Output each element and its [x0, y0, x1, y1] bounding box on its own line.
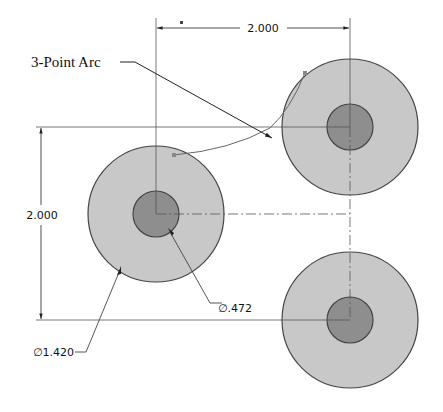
horizontal-dimension[interactable]: 2.000 [157, 21, 349, 35]
horizontal-dim-text: 2.000 [247, 22, 279, 35]
inner-diameter-text: ∅.472 [218, 302, 252, 315]
arc-callout-label: 3-Point Arc [31, 54, 101, 70]
arc-callout: 3-Point Arc [31, 54, 272, 138]
sketch-canvas: 2.000 2.000 3-Point Arc ∅.472 ∅1.420 [0, 0, 443, 412]
outer-diameter-text: ∅1.420 [33, 346, 74, 359]
vertical-dim-text: 2.000 [26, 209, 58, 222]
vertical-dimension[interactable]: 2.000 [26, 128, 58, 319]
outer-diameter-dimension[interactable]: ∅1.420 [33, 266, 121, 359]
